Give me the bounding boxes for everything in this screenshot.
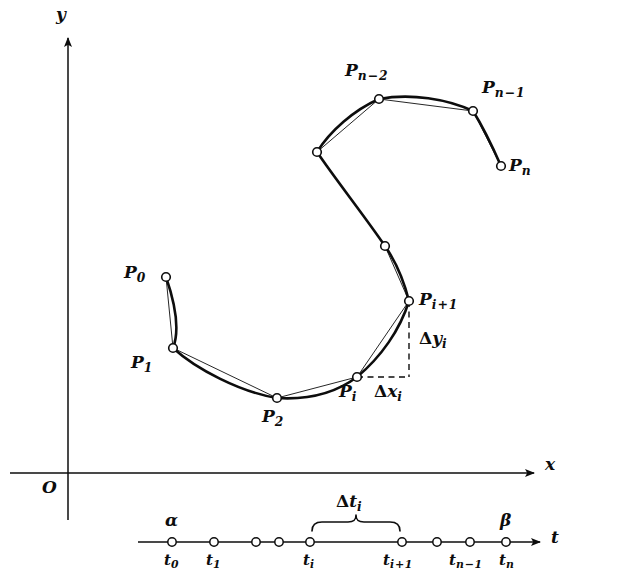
origin-label: O: [42, 479, 57, 496]
point-label-p2-subscript: 2: [275, 415, 284, 429]
x-axis-label: x: [545, 456, 555, 473]
curve-node-pn-minus-2: [375, 95, 384, 104]
point-label-p2: P2: [262, 408, 284, 425]
t-tick-label-ti-plus-1-base: t: [383, 551, 390, 569]
t-tick-label-t1: t1: [206, 553, 221, 568]
point-label-pi-base: P: [339, 381, 352, 401]
delta-y-symbol: Δ: [419, 328, 432, 348]
chord-segment: [317, 99, 379, 152]
axes-group: [10, 38, 534, 520]
delta-y-subscript: i: [442, 337, 447, 351]
t-tick-label-tn-minus-1-base: t: [449, 551, 456, 569]
smooth-curve: [166, 97, 501, 399]
point-label-pn-minus-1-base: P: [482, 77, 495, 97]
delta-x-subscript: i: [397, 390, 402, 404]
t-tick-label-tn-minus-1: tn−1: [449, 553, 482, 568]
t-tick-label-ti-subscript: i: [310, 558, 314, 571]
t-tick-t1: [210, 538, 218, 546]
t-tick-ti: [306, 538, 314, 546]
t-axis-group: [138, 515, 540, 546]
parametric-curve-figure: y x O t P0 P1 P2 Pi Pi+1 Pn−2 Pn−1 Pn Δy…: [0, 0, 624, 588]
point-label-pn: Pn: [509, 157, 531, 174]
point-label-pi: Pi: [339, 383, 357, 400]
point-label-pi-plus-1: Pi+1: [419, 291, 457, 308]
chord-polyline: [166, 99, 501, 398]
point-label-p1-subscript: 1: [144, 361, 153, 375]
delta-t-subscript: i: [357, 500, 362, 514]
point-label-pi-subscript: i: [352, 390, 357, 404]
t-tick-tn: [502, 538, 510, 546]
t-tick-label-t0: t0: [164, 553, 179, 568]
point-label-p1-base: P: [131, 352, 144, 372]
y-axis-label: y: [56, 6, 66, 23]
t-tick-label-tn-subscript: n: [506, 558, 514, 571]
chord-segment: [173, 348, 277, 398]
t-tick-label-ti-plus-1-operator: +: [394, 558, 405, 571]
alpha-label: α: [165, 512, 178, 529]
point-label-pn-minus-1-operator: −: [504, 85, 516, 100]
t-tick-tn-minus-1: [466, 538, 474, 546]
delta-y-base: y: [432, 328, 442, 348]
figure-canvas: [0, 0, 624, 588]
t-tick-label-ti-plus-1-subscript-1: 1: [405, 558, 413, 571]
delta-x-base: x: [387, 381, 397, 401]
t-tick-label-tn-minus-1-subscript-1: 1: [475, 558, 483, 571]
point-label-pn-minus-1-subscript-1: 1: [516, 86, 525, 100]
t-tick-label-tn-minus-1-operator: −: [464, 558, 475, 571]
delta-x-symbol: Δ: [374, 381, 387, 401]
point-label-pn-minus-2-base: P: [345, 60, 358, 80]
point-label-pn-minus-2-subscript-n: n: [358, 69, 367, 83]
point-label-pn-minus-2-operator: −: [367, 68, 379, 83]
delta-y-label: Δyi: [419, 330, 447, 347]
point-label-pn-subscript: n: [522, 164, 531, 178]
t-tick-label-ti-base: t: [303, 551, 310, 569]
t-tick-label-tn-minus-1-subscript-n: n: [456, 558, 464, 571]
delta-t-base: t: [349, 491, 357, 511]
t-tick-label-t0-base: t: [164, 551, 171, 569]
point-label-pi-plus-1-subscript-i: i: [432, 298, 437, 312]
t-axis-label: t: [551, 529, 559, 546]
point-label-pn-minus-1: Pn−1: [482, 79, 525, 96]
t-tick-label-t1-base: t: [206, 551, 213, 569]
point-label-pi-plus-1-operator: +: [437, 297, 449, 312]
curve-node-p2: [273, 394, 282, 403]
point-label-pi-plus-1-subscript-1: 1: [449, 298, 458, 312]
t-tick-ti-plus-1: [398, 538, 406, 546]
t-tick-label-tn-base: t: [499, 551, 506, 569]
point-label-p0: P0: [124, 264, 146, 281]
curve-node-p1: [169, 344, 178, 353]
curve-node-group: [162, 95, 506, 403]
point-label-p0-subscript: 0: [137, 271, 146, 285]
t-tick-unlabeled-3: [433, 538, 441, 546]
curve-path: [166, 97, 501, 399]
curve-node-unlabeled-2: [313, 148, 322, 157]
curve-node-pn: [497, 162, 506, 171]
point-label-p1: P1: [131, 354, 153, 371]
t-tick-unlabeled-1: [252, 538, 260, 546]
t-tick-label-ti-plus-1: ti+1: [383, 553, 413, 568]
point-label-pn-minus-2-subscript-2: 2: [379, 69, 388, 83]
chord-segment: [357, 301, 409, 377]
beta-label: β: [500, 512, 511, 529]
point-label-p0-base: P: [124, 262, 137, 282]
t-tick-label-t1-subscript: 1: [213, 558, 221, 571]
curve-node-pi: [353, 373, 362, 382]
point-label-p2-base: P: [262, 406, 275, 426]
point-label-pn-base: P: [509, 155, 522, 175]
curve-node-p0: [162, 273, 171, 282]
chord-segment: [385, 246, 409, 301]
point-label-pi-plus-1-base: P: [419, 289, 432, 309]
curve-node-pi-plus-1: [405, 297, 414, 306]
t-tick-label-ti: ti: [303, 553, 314, 568]
delta-t-label: Δti: [336, 493, 362, 510]
curve-node-pn-minus-1: [469, 107, 478, 116]
t-tick-t0: [168, 538, 176, 546]
curve-node-unlabeled-1: [381, 242, 390, 251]
delta-x-label: Δxi: [374, 383, 402, 400]
delta-t-brace: [312, 515, 400, 531]
point-label-pn-minus-2: Pn−2: [345, 62, 388, 79]
t-tick-label-tn: tn: [499, 553, 514, 568]
point-label-pn-minus-1-subscript-n: n: [495, 86, 504, 100]
t-tick-label-t0-subscript: 0: [171, 558, 179, 571]
t-tick-unlabeled-2: [275, 538, 283, 546]
